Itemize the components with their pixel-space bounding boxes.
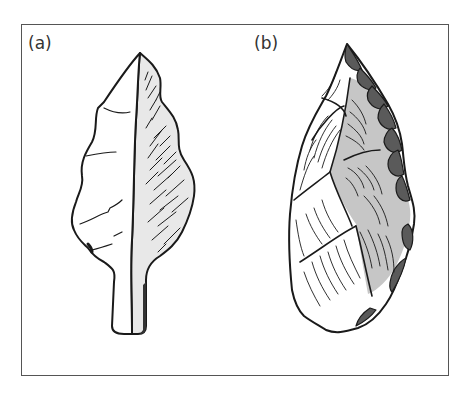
artifact-a-shaded-face: [131, 53, 194, 334]
artifact-a-light-face: [72, 53, 140, 334]
artifact-a-illustration: [72, 53, 195, 334]
artifacts-drawing: [0, 0, 472, 396]
artifact-b-illustration: [289, 44, 414, 332]
